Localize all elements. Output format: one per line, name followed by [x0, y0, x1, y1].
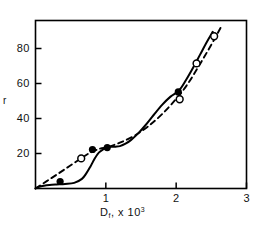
plot-canvas: [0, 0, 254, 228]
y-tick-label: 60: [6, 77, 30, 89]
y-tick-label: 20: [6, 147, 30, 159]
data-point-filled: [57, 178, 64, 185]
data-point-open: [176, 96, 183, 103]
data-point-filled: [104, 144, 111, 151]
data-markers: [57, 33, 218, 185]
data-point-filled: [89, 146, 96, 153]
data-point-open: [193, 60, 200, 67]
data-point-filled: [175, 88, 182, 95]
y-tick-label: 40: [6, 112, 30, 124]
figure: 20406080 123 r Df, x 103: [0, 0, 254, 228]
x-tick-label: 1: [96, 192, 116, 204]
plot-frame: [36, 21, 247, 189]
x-axis-label-base: Df, x 10: [100, 206, 141, 218]
x-axis-label-subscript: f: [108, 212, 110, 219]
x-axis-label: Df, x 103: [100, 206, 145, 219]
x-tick-label: 2: [166, 192, 186, 204]
y-tick-label: 80: [6, 42, 30, 54]
x-axis-label-exponent: 3: [141, 206, 145, 213]
y-axis-label: r: [3, 95, 6, 106]
data-curves: [36, 27, 222, 189]
data-point-open: [78, 155, 85, 162]
solid-curve: [36, 32, 213, 189]
dashed-curve: [36, 27, 222, 189]
x-tick-label: 3: [237, 192, 255, 204]
data-point-open: [211, 33, 218, 40]
